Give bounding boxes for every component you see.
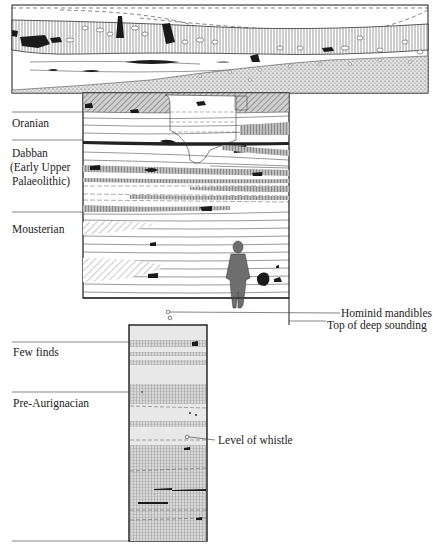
label-oranian: Oranian [12, 117, 49, 130]
label-dabban-early-upper: (Early Upper [10, 161, 70, 174]
deep-sounding-section [83, 298, 289, 541]
label-level-whistle: Level of whistle [218, 434, 293, 447]
label-pre-aurignacian: Pre-Aurignacian [13, 397, 89, 410]
stratigraphic-section-diagram [0, 0, 433, 548]
label-dabban: Dabban [12, 147, 48, 160]
upper-face-section [12, 5, 428, 93]
label-dabban-palaeolithic: Palaeolithic) [12, 175, 70, 188]
label-few-finds: Few finds [13, 346, 59, 359]
label-top-deep-sounding: Top of deep sounding [327, 319, 427, 332]
main-trench-section [83, 93, 289, 320]
label-mousterian: Mousterian [12, 223, 64, 236]
